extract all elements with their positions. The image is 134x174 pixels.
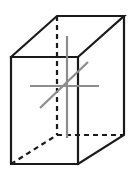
cube-figure [0,0,134,174]
cube-diagram-svg [0,0,134,174]
